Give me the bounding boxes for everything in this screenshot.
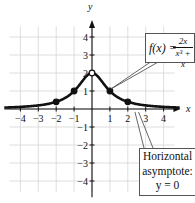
filled-point (71, 88, 77, 94)
filled-point (107, 88, 113, 94)
y-tick-label: 4 (83, 32, 88, 43)
formula-fraction: 2x x³ + x (173, 36, 193, 70)
x-tick-label: −4 (15, 113, 26, 124)
open-point (89, 70, 95, 76)
y-axis-label: y (87, 1, 93, 12)
asymptote-label-line2: asymptote: (140, 164, 195, 179)
filled-point (53, 99, 59, 105)
filled-point (125, 99, 131, 105)
x-tick-label: −2 (51, 113, 62, 124)
asymptote-label-line3: y = 0 (140, 178, 195, 193)
asymptote-callout: Horizontal asymptote: y = 0 (139, 148, 195, 196)
x-tick-label: 2 (125, 113, 130, 124)
x-tick-label: 1 (107, 113, 112, 124)
formula-numerator: 2x (173, 36, 193, 48)
y-tick-label: −1 (77, 122, 88, 133)
x-axis-label: x (185, 103, 191, 114)
y-tick-label: −2 (77, 140, 88, 151)
x-tick-label: −3 (33, 113, 44, 124)
x-tick-label: 4 (161, 113, 166, 124)
function-formula-callout: f(x) = 2x x³ + x (145, 33, 195, 63)
y-tick-label: −4 (77, 176, 88, 187)
asymptote-label-line1: Horizontal (140, 149, 195, 164)
x-tick-label: 3 (143, 113, 148, 124)
y-tick-label: −3 (77, 158, 88, 169)
formula-denominator: x³ + x (173, 48, 193, 70)
y-tick-label: 3 (83, 50, 88, 61)
y-tick-label: 1 (83, 86, 88, 97)
